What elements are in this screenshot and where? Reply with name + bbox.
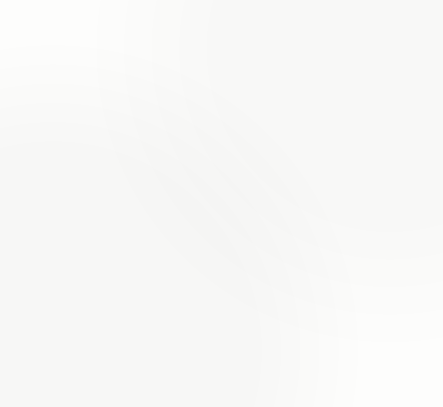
pv-diagram-figure xyxy=(0,0,443,407)
